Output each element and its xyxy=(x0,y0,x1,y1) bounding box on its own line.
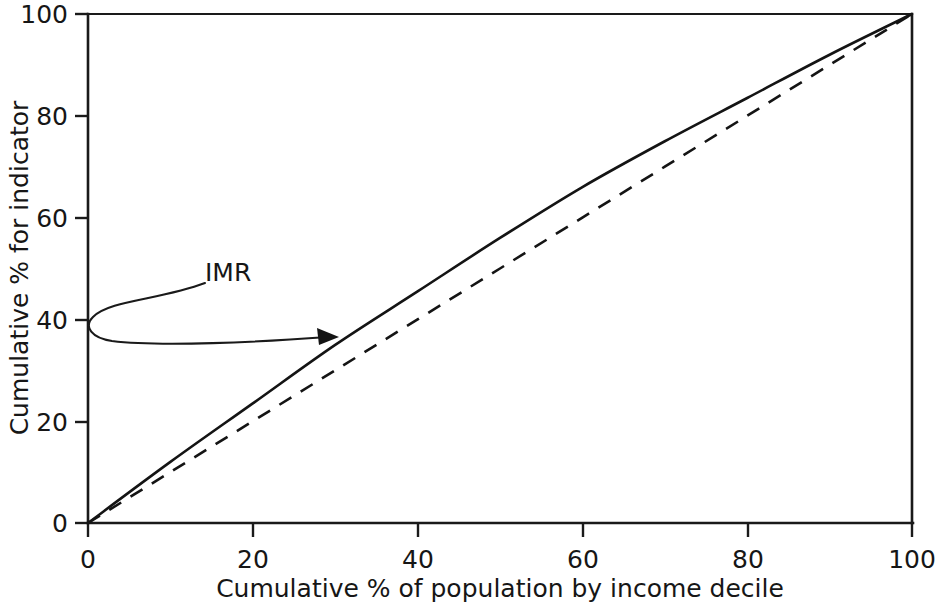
lorenz-curve-chart: 100 80 60 40 20 0 0 20 40 60 80 100 IMR … xyxy=(0,0,939,603)
x-tick-label-80: 80 xyxy=(732,545,764,574)
imr-annotation-label: IMR xyxy=(205,258,251,287)
y-tick-label-60: 60 xyxy=(36,204,68,233)
x-tick-label-60: 60 xyxy=(567,545,599,574)
y-tick-label-20: 20 xyxy=(36,408,68,437)
imr-leader-line xyxy=(89,283,328,344)
chart-canvas: 100 80 60 40 20 0 0 20 40 60 80 100 IMR … xyxy=(0,0,939,603)
x-tick-label-40: 40 xyxy=(402,545,434,574)
x-axis-title: Cumulative % of population by income dec… xyxy=(216,574,784,603)
imr-arrow-head xyxy=(317,328,339,345)
x-tick-label-100: 100 xyxy=(888,545,936,574)
x-tick-label-0: 0 xyxy=(80,545,96,574)
y-tick-label-0: 0 xyxy=(52,509,68,538)
y-tick-label-80: 80 xyxy=(36,102,68,131)
x-tick-label-20: 20 xyxy=(237,545,269,574)
y-tick-label-40: 40 xyxy=(36,306,68,335)
y-tick-label-100: 100 xyxy=(20,0,68,29)
y-axis-title: Cumulative % for indicator xyxy=(5,100,34,435)
